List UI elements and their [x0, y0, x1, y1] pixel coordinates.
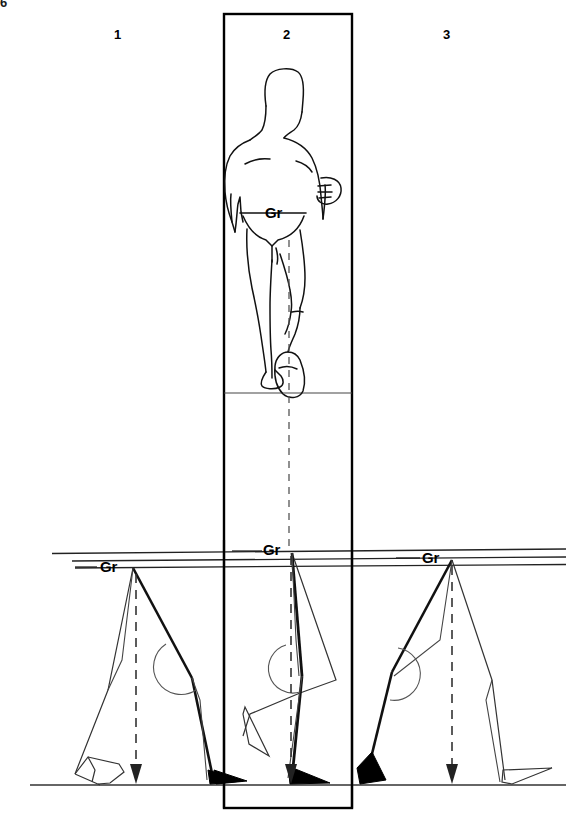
- p3-stance-thigh: [392, 560, 452, 672]
- panel-number-3: 3: [443, 28, 450, 41]
- stance-leg-outer: [247, 229, 266, 372]
- reference-line-bottom: [75, 565, 566, 569]
- corner-page-mark: 6: [0, 0, 7, 9]
- p2-left-foot-fragment: [214, 770, 247, 784]
- p1-plumb-arrowhead: [130, 764, 142, 784]
- swing-leg-inner: [280, 254, 292, 312]
- gr-label-panel-1: Gr: [100, 559, 117, 574]
- p1-knee-angle-arc: [154, 644, 196, 694]
- gait-analysis-figure: 6 1 2 3 Gr Gr Gr Gr: [0, 0, 566, 837]
- p1-stance-thigh: [133, 568, 192, 678]
- p3-knee-angle-arc: [390, 648, 420, 700]
- p3-stance-foot-filled: [357, 752, 386, 784]
- p3-plumb-arrowhead: [446, 764, 458, 784]
- stance-leg-inner: [270, 260, 272, 378]
- gr-label-panel-3: Gr: [422, 550, 439, 565]
- p1-swing-foot-outline: [88, 757, 124, 784]
- panel-2-frame: [224, 14, 352, 808]
- panel-3-limb-diagram: [357, 560, 552, 784]
- panel-number-1: 1: [114, 28, 121, 41]
- panel-1-limb-diagram: [75, 568, 243, 785]
- head-outline: [265, 69, 303, 112]
- p2-stance-shank: [292, 676, 302, 778]
- panel-2-limb-diagram: [214, 553, 336, 784]
- panel-number-2: 2: [283, 28, 290, 41]
- torso-right: [284, 138, 323, 219]
- reference-line-top: [52, 549, 566, 554]
- p2-swing-foot-outline: [243, 707, 269, 756]
- p1-swing-thigh: [75, 568, 133, 774]
- p3-swing-foot-outline: [502, 768, 552, 784]
- gr-label-frontal-figure: Gr: [265, 205, 282, 220]
- gr-label-panel-2: Gr: [263, 542, 280, 557]
- diagram-canvas: [0, 0, 566, 837]
- p2-knee-angle-arc: [268, 645, 300, 693]
- swing-leg-outer: [300, 230, 305, 308]
- reference-line-middle: [72, 557, 566, 561]
- frontal-walking-figure: [225, 69, 341, 398]
- p3-swing-thigh: [452, 560, 505, 780]
- p3-stance-shank: [370, 672, 392, 762]
